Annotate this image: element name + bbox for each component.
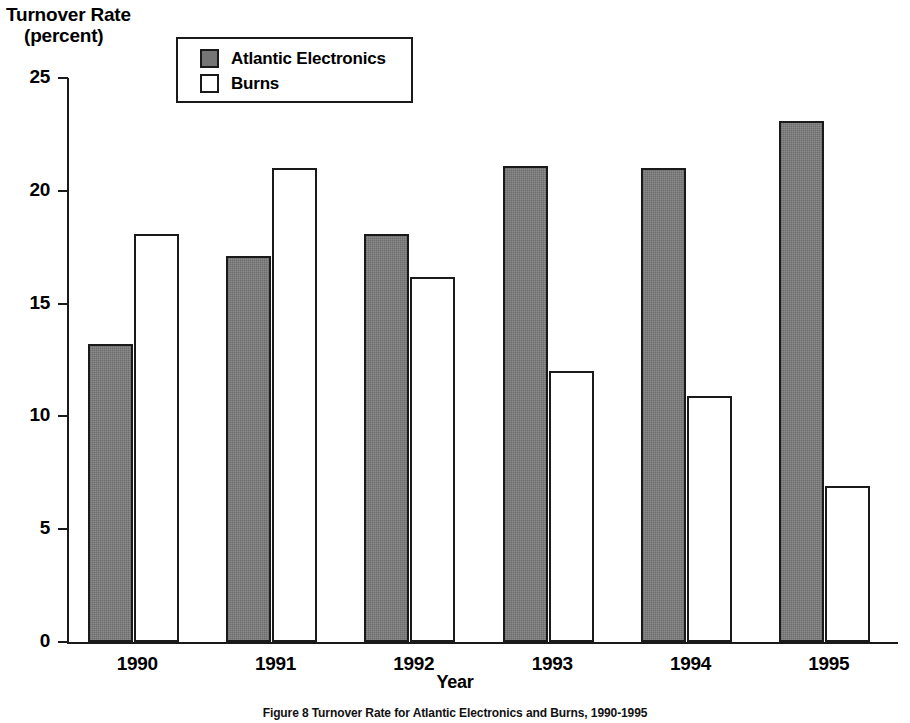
bar-burns-1995 [825, 486, 870, 642]
y-axis-tick-label: 20 [29, 179, 50, 201]
bar-chart-figure: Turnover Rate (percent) Atlantic Electro… [0, 0, 910, 723]
bar-burns-1993 [549, 371, 594, 642]
bar-burns-1994 [687, 396, 732, 642]
y-axis-tick: 5 [58, 528, 68, 530]
legend-label-atlantic-electronics: Atlantic Electronics [231, 49, 386, 69]
y-axis-tick-label: 5 [40, 517, 50, 539]
bar-burns-1991 [272, 168, 317, 642]
legend-swatch-icon-atlantic-electronics [200, 49, 219, 68]
legend-item-atlantic-electronics: Atlantic Electronics [200, 46, 411, 71]
plot-area: 0510152025199019911992199319941995 [68, 78, 898, 642]
x-axis-title: Year [0, 672, 910, 693]
bar-atlantic-1990 [88, 344, 133, 642]
bar-atlantic-1991 [226, 256, 271, 642]
x-axis-line [67, 642, 898, 644]
y-axis-tick-label: 15 [29, 292, 50, 314]
bar-atlantic-1994 [641, 168, 686, 642]
y-axis-tick-label: 10 [29, 404, 50, 426]
bar-atlantic-1992 [364, 234, 409, 642]
chart-title-line-2: (percent) [6, 25, 131, 46]
y-axis-tick: 20 [58, 190, 68, 192]
y-axis-tick: 15 [58, 303, 68, 305]
bar-burns-1990 [134, 234, 179, 642]
y-axis-tick: 25 [58, 77, 68, 79]
y-axis-tick: 0 [58, 641, 68, 643]
chart-title-line-1: Turnover Rate [6, 4, 131, 25]
bar-burns-1992 [410, 277, 455, 642]
y-axis-line [67, 78, 69, 642]
y-axis-tick: 10 [58, 415, 68, 417]
bar-atlantic-1993 [503, 166, 548, 642]
chart-title: Turnover Rate (percent) [6, 4, 131, 47]
bar-atlantic-1995 [779, 121, 824, 642]
y-axis-tick-label: 25 [29, 66, 50, 88]
y-axis-tick-label: 0 [40, 630, 50, 652]
figure-caption: Figure 8 Turnover Rate for Atlantic Elec… [0, 706, 910, 720]
